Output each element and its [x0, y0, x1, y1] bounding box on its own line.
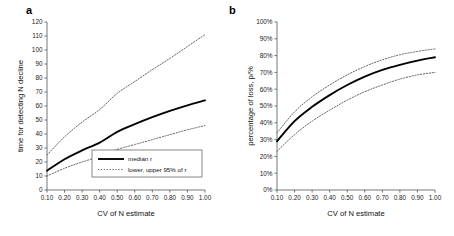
legend-label-median: median r: [128, 155, 152, 162]
a-ytick-label: 110: [32, 32, 43, 39]
panel-b-yaxis-title: percentage of loss, p/%: [246, 66, 255, 146]
a-ytick-label: 0: [39, 186, 43, 193]
a-ytick-label: 50: [35, 116, 43, 123]
a-xtick-label: 0.80: [164, 194, 177, 201]
b-xtick-label: 0.20: [288, 194, 301, 201]
a-curve-upper-95-of-r: [47, 35, 205, 155]
b-ytick-label: 10%: [260, 170, 273, 177]
b-xtick-label: 0.40: [323, 194, 336, 201]
panel-b-plot: 0%10%20%30%40%50%60%70%80%90%100% 0.100.…: [227, 0, 454, 236]
b-xtick-label: 0.80: [394, 194, 407, 201]
panel-a-plot: 0102030405060708090100110120 0.100.200.3…: [0, 0, 227, 236]
a-xtick-label: 0.60: [129, 194, 142, 201]
a-ytick-label: 100: [32, 46, 43, 53]
a-ytick-label: 80: [35, 74, 43, 81]
legend-label-ci: lower, upper 95% of r: [128, 166, 186, 173]
a-xtick-label: 0.30: [76, 194, 89, 201]
a-ytick-label: 60: [35, 102, 43, 109]
a-xtick-label: 0.10: [41, 194, 54, 201]
b-xtick-label: 0.50: [341, 194, 354, 201]
a-ytick-label: 120: [32, 18, 43, 25]
a-ytick-label: 30: [35, 144, 43, 151]
b-ytick-label: 0%: [263, 186, 273, 193]
a-xtick-label: 1.00: [199, 194, 212, 201]
a-xtick-label: 0.50: [111, 194, 124, 201]
a-ytick-label: 90: [35, 60, 43, 67]
b-xtick-label: 0.60: [359, 194, 372, 201]
legend-box: [92, 150, 202, 177]
b-xtick-label: 1.00: [429, 194, 442, 201]
b-curve-median-r: [277, 57, 435, 141]
b-ytick-label: 20%: [260, 153, 273, 160]
b-ytick-label: 100%: [256, 18, 273, 25]
a-ytick-label: 10: [35, 172, 43, 179]
a-ytick-label: 70: [35, 88, 43, 95]
b-xtick-label: 0.30: [306, 194, 319, 201]
a-xtick-label: 0.40: [93, 194, 106, 201]
panel-a: a 0102030405060708090100110120 0.100.200…: [0, 0, 227, 236]
b-xtick-label: 0.10: [271, 194, 284, 201]
panel-a-xaxis-title: CV of N estimate: [97, 209, 154, 218]
b-ytick-label: 90%: [260, 35, 273, 42]
b-xtick-label: 0.90: [411, 194, 424, 201]
a-xtick-label: 0.20: [58, 194, 71, 201]
b-ytick-label: 50%: [260, 102, 273, 109]
b-ytick-label: 80%: [260, 52, 273, 59]
a-xtick-label: 0.70: [146, 194, 159, 201]
figure-container: a 0102030405060708090100110120 0.100.200…: [0, 0, 454, 236]
panel-b: b 0%10%20%30%40%50%60%70%80%90%100% 0.10…: [227, 0, 454, 236]
a-xtick-label: 0.90: [181, 194, 194, 201]
b-xtick-label: 0.70: [376, 194, 389, 201]
panel-b-xaxis-title: CV of N estimate: [327, 209, 384, 218]
panel-a-yaxis-title: time for detecting N decline: [16, 60, 25, 152]
b-ytick-label: 70%: [260, 69, 273, 76]
b-ytick-label: 60%: [260, 86, 273, 93]
b-ytick-label: 30%: [260, 136, 273, 143]
a-ytick-label: 20: [35, 158, 43, 165]
b-ytick-label: 40%: [260, 119, 273, 126]
a-ytick-label: 40: [35, 130, 43, 137]
b-curve-lower-95-of-r: [277, 72, 435, 151]
